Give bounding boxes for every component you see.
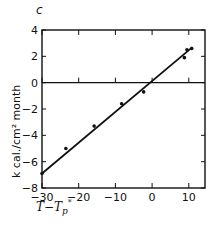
plot-frame	[42, 30, 205, 188]
x-tick-label: 0	[149, 191, 156, 204]
axis-ticks	[42, 30, 205, 188]
data-point	[142, 90, 146, 94]
y-tick-label: 4	[31, 24, 38, 37]
y-tick-label: 0	[31, 77, 38, 90]
panel-label: c	[36, 3, 43, 17]
data-point	[183, 56, 187, 60]
fit-line	[42, 47, 192, 173]
data-series	[40, 47, 193, 176]
y-tick-label: 2	[31, 50, 38, 63]
data-point	[64, 147, 68, 151]
plot-border	[42, 30, 205, 188]
y-tick-label: −6	[22, 156, 38, 169]
tick-labels: −30−20−10010420−2−4−6−8	[22, 24, 196, 204]
y-tick-label: −4	[22, 129, 38, 142]
y-axis-title: k cal./cm² month	[10, 85, 23, 178]
data-point	[92, 124, 96, 128]
y-tick-label: −8	[22, 182, 38, 195]
x-tick-label: 10	[182, 191, 196, 204]
y-tick-label: −2	[22, 103, 38, 116]
x-tick-label: −10	[104, 191, 127, 204]
chart: −30−20−10010420−2−4−6−8 c k cal./cm² mon…	[0, 0, 215, 225]
